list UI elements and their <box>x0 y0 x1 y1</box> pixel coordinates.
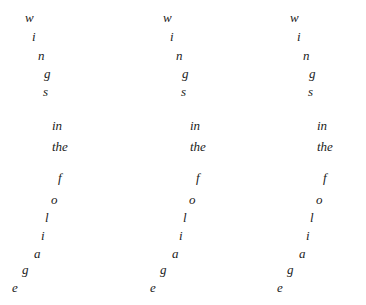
poem-letter: g <box>44 67 51 80</box>
poem-letter: i <box>170 30 174 43</box>
poem-column: wingsinthefoliage <box>265 0 366 305</box>
poem-letter: l <box>45 211 49 224</box>
poem-letter: w <box>290 11 299 24</box>
poem-letter: g <box>160 263 167 276</box>
poem-letter: s <box>181 85 186 98</box>
poem-letter: g <box>309 67 316 80</box>
poem-column: wingsinthefoliage <box>0 0 130 305</box>
poem-letter: n <box>303 49 310 62</box>
poem-word: in <box>317 119 327 132</box>
poem-letter: g <box>287 263 294 276</box>
poem-letter: o <box>51 193 58 206</box>
poem-word: the <box>52 140 68 153</box>
poem-column: wingsinthefoliage <box>138 0 268 305</box>
poem-letter: i <box>41 229 45 242</box>
poem-letter: o <box>189 193 196 206</box>
poem-letter: f <box>58 171 62 184</box>
poem-letter: n <box>38 49 45 62</box>
poem-letter: o <box>316 193 323 206</box>
poem-letter: e <box>150 281 156 294</box>
poem-letter: n <box>176 49 183 62</box>
poem-letter: i <box>179 229 183 242</box>
poem-letter: i <box>306 229 310 242</box>
poem-letter: e <box>277 281 283 294</box>
poem-letter: a <box>172 247 179 260</box>
poem-word: the <box>317 140 333 153</box>
poem-letter: w <box>25 11 34 24</box>
poem-letter: l <box>183 211 187 224</box>
poem-letter: s <box>308 85 313 98</box>
poem-canvas: wingsinthefoliagewingsinthefoliagewingsi… <box>0 0 366 305</box>
poem-word: in <box>52 119 62 132</box>
poem-letter: l <box>310 211 314 224</box>
poem-word: in <box>190 119 200 132</box>
poem-letter: w <box>163 11 172 24</box>
poem-letter: f <box>196 171 200 184</box>
poem-letter: s <box>43 85 48 98</box>
poem-letter: e <box>12 281 18 294</box>
poem-letter: g <box>22 263 29 276</box>
poem-letter: a <box>34 247 41 260</box>
poem-letter: g <box>182 67 189 80</box>
poem-letter: a <box>299 247 306 260</box>
poem-letter: i <box>32 30 36 43</box>
poem-word: the <box>190 140 206 153</box>
poem-letter: i <box>297 30 301 43</box>
poem-letter: f <box>323 171 327 184</box>
